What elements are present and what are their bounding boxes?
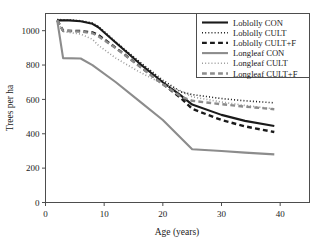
y-tick-label: 0 [35, 198, 40, 208]
legend-label: Longleaf CON [233, 48, 285, 58]
y-tick-label: 200 [26, 163, 40, 173]
x-tick-label: 20 [158, 209, 168, 219]
y-tick-label: 800 [26, 60, 40, 70]
figure-container: 02004006008001000 010203040 Age (years) … [0, 0, 325, 242]
y-tick-label: 1000 [22, 26, 41, 36]
x-tick-label: 40 [276, 209, 286, 219]
legend-label: Loblolly CULT+F [233, 38, 296, 48]
legend-label: Loblolly CULT [233, 28, 287, 38]
chart-svg: 02004006008001000 010203040 Age (years) … [0, 0, 325, 242]
legend-label: Longleaf CULT [233, 58, 289, 68]
legend: Loblolly CONLoblolly CULTLoblolly CULT+F… [197, 14, 310, 79]
y-tick-label: 600 [26, 95, 40, 105]
x-axis-title: Age (years) [155, 227, 200, 238]
y-tick-label: 400 [26, 129, 40, 139]
x-tick-label: 0 [43, 209, 48, 219]
legend-label: Longleaf CULT+F [233, 69, 298, 79]
x-tick-label: 10 [100, 209, 110, 219]
x-tick-label: 30 [217, 209, 227, 219]
y-axis-title: Trees per ha [5, 84, 15, 131]
legend-label: Loblolly CON [233, 18, 284, 28]
